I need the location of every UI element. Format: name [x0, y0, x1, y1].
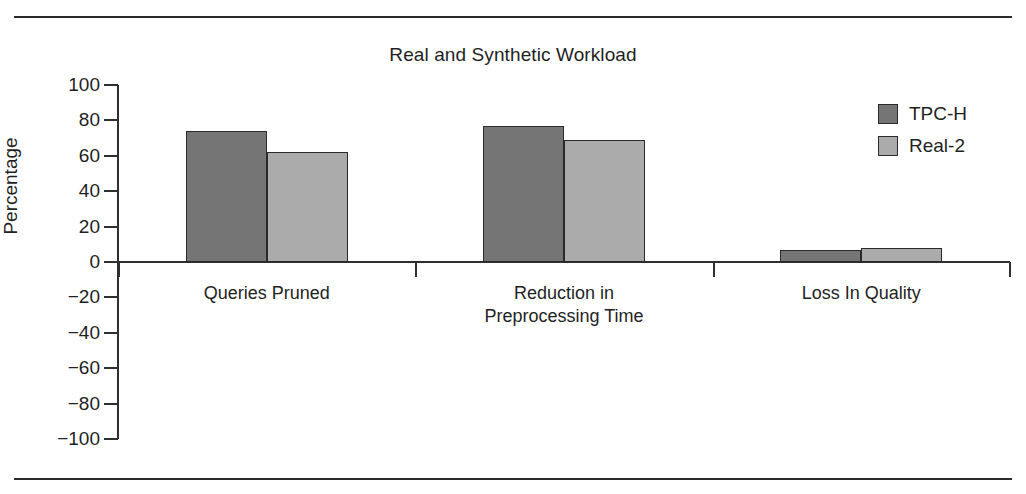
- y-axis-tick-label: 20: [40, 217, 100, 236]
- y-axis-tick: [104, 438, 118, 440]
- y-axis-tick: [104, 261, 118, 263]
- y-axis-tick-label: 60: [40, 146, 100, 165]
- x-axis-category-label: Reduction inPreprocessing Time: [415, 282, 712, 328]
- y-axis-tick-label: −40: [40, 323, 100, 342]
- bar-tpc-h-1: [483, 126, 564, 262]
- y-axis-tick: [104, 367, 118, 369]
- y-axis-tick-label: 0: [40, 252, 100, 271]
- y-axis-tick-label: −60: [40, 358, 100, 377]
- y-axis-tick: [104, 403, 118, 405]
- y-axis-tick-label: −100: [40, 429, 100, 448]
- y-axis-tick: [104, 84, 118, 86]
- y-axis-tick: [104, 155, 118, 157]
- y-axis-title: Percentage: [0, 137, 22, 234]
- legend-swatch-icon: [878, 104, 898, 124]
- x-axis-category-line: Preprocessing Time: [415, 305, 712, 328]
- y-axis-tick-label: −20: [40, 287, 100, 306]
- y-axis-tick-label: 80: [40, 110, 100, 129]
- x-axis-category-label: Queries Pruned: [118, 282, 415, 305]
- bottom-divider-rule: [14, 478, 1012, 480]
- bar-real-2-0: [267, 152, 348, 262]
- y-axis-tick: [104, 332, 118, 334]
- bar-tpc-h-0: [186, 131, 267, 262]
- y-axis-tick-label: 40: [40, 181, 100, 200]
- y-axis-tick: [104, 119, 118, 121]
- chart-legend: TPC-HReal-2: [878, 100, 967, 164]
- y-axis-tick: [104, 226, 118, 228]
- y-axis-tick-label: −80: [40, 394, 100, 413]
- chart-title: Real and Synthetic Workload: [0, 44, 1026, 66]
- bar-real-2-1: [564, 140, 645, 262]
- legend-item-real-2[interactable]: Real-2: [878, 132, 967, 160]
- x-axis-category-line: Loss In Quality: [713, 282, 1010, 305]
- legend-label: TPC-H: [909, 103, 967, 125]
- y-axis-tick: [104, 190, 118, 192]
- x-axis-category-line: Queries Pruned: [118, 282, 415, 305]
- y-axis-tick-labels: 100806040200−20−40−60−80−100: [34, 0, 100, 494]
- x-axis-category-line: Reduction in: [415, 282, 712, 305]
- legend-swatch-icon: [878, 136, 898, 156]
- y-axis-tick: [104, 296, 118, 298]
- legend-item-tpc-h[interactable]: TPC-H: [878, 100, 967, 128]
- bar-real-2-2: [861, 248, 942, 262]
- plot-area: [118, 85, 1010, 439]
- y-axis-tick-label: 100: [40, 75, 100, 94]
- x-axis-category-label: Loss In Quality: [713, 282, 1010, 305]
- top-divider-rule: [14, 16, 1012, 18]
- bar-tpc-h-2: [780, 250, 861, 262]
- legend-label: Real-2: [909, 135, 965, 157]
- figure-container: Real and Synthetic Workload Percentage 1…: [0, 0, 1026, 494]
